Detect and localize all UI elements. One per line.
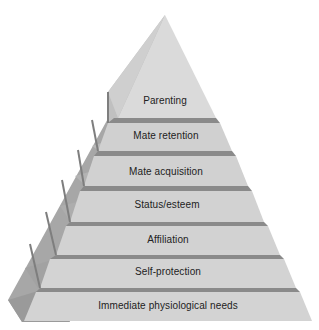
strip-4	[66, 222, 268, 226]
tier-label-self-protection: Self-protection	[135, 266, 201, 277]
strip-6	[36, 288, 300, 292]
tier-label-mate-acquisition: Mate acquisition	[129, 166, 203, 177]
tier-label-mate-retention: Mate retention	[133, 130, 198, 141]
strip-1	[108, 118, 220, 123]
strip-2	[94, 151, 236, 156]
strip-3	[80, 186, 252, 191]
tier-label-status-esteem: Status/esteem	[134, 199, 199, 210]
tier-label-affiliation: Affiliation	[147, 234, 189, 245]
strip-5	[50, 255, 284, 259]
pyramid-graphic	[0, 0, 319, 330]
tier-label-physiological-needs: Immediate physiological needs	[98, 300, 238, 311]
tier-label-parenting: Parenting	[143, 95, 187, 106]
